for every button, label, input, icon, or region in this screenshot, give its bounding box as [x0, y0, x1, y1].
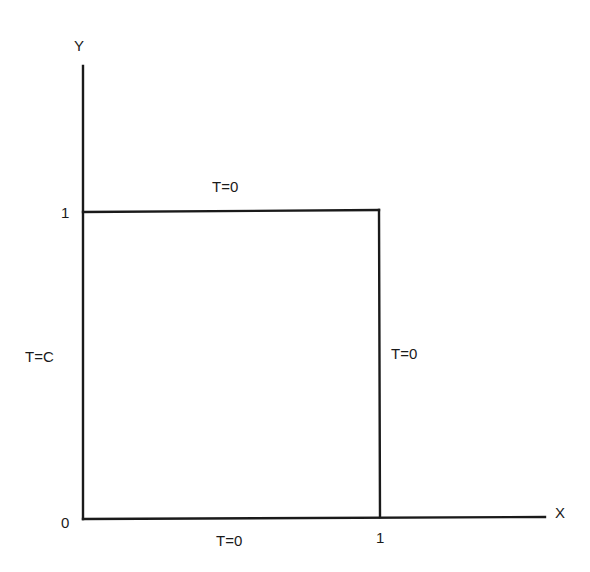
x-tick-label: 1: [376, 529, 384, 546]
x-axis: [83, 517, 545, 519]
top-boundary: [83, 210, 379, 212]
boundary-diagram: Y X 0 1 1 T=0 T=0 T=0 T=C: [0, 0, 590, 572]
left-bc-label: T=C: [25, 348, 54, 365]
right-bc-label: T=0: [391, 345, 417, 362]
x-axis-label: X: [555, 504, 565, 521]
y-axis-label: Y: [74, 37, 84, 54]
origin-label: 0: [61, 514, 69, 531]
top-bc-label: T=0: [212, 178, 238, 195]
bottom-bc-label: T=0: [216, 532, 242, 549]
y-tick-label: 1: [61, 204, 69, 221]
right-boundary: [379, 210, 380, 517]
